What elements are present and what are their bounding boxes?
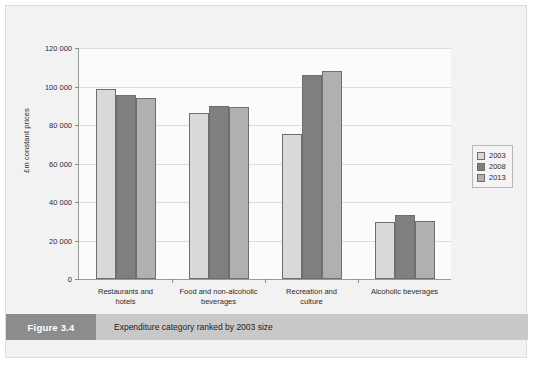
bar-2008	[395, 215, 415, 279]
bar-group-bars	[79, 48, 172, 279]
bar-2003	[96, 89, 116, 279]
bar-2008	[209, 106, 229, 279]
legend-swatch-icon	[477, 152, 485, 160]
bar-2003	[189, 113, 209, 280]
x-axis-label-line: hotels	[74, 297, 178, 307]
bar-group-bars	[172, 48, 265, 279]
x-axis-category-label: Recreation andculture	[260, 287, 364, 307]
chart-legend: 200320082013	[472, 145, 513, 188]
bar-2008	[302, 75, 322, 279]
y-axis-tick-label: 40 000	[49, 198, 72, 207]
figure-caption-bar: Figure 3.4 Expenditure category ranked b…	[6, 314, 528, 340]
bar-2013	[322, 71, 342, 279]
x-axis-label-line: Alcoholic beverages	[353, 287, 457, 297]
bar-2013	[136, 98, 156, 279]
x-axis-label-line: culture	[260, 297, 364, 307]
y-axis-tick-label: 80 000	[49, 121, 72, 130]
x-axis-label-line: Food and non-alcoholic	[167, 287, 271, 297]
legend-item-label: 2003	[489, 151, 506, 160]
legend-swatch-icon	[477, 163, 485, 171]
bar-2003	[375, 222, 395, 279]
x-axis-category-label: Food and non-alcoholicbeverages	[167, 287, 271, 307]
chart-area: £m constant prices 120 000100 00080 0006…	[6, 6, 528, 306]
y-axis-title: £m constant prices	[22, 81, 31, 201]
x-axis-label-line: Restaurants and	[74, 287, 178, 297]
bar-group: Alcoholic beverages	[358, 48, 451, 279]
x-axis-tick	[172, 279, 173, 283]
figure-frame: £m constant prices 120 000100 00080 0006…	[5, 5, 527, 358]
bar-group: Restaurants andhotels	[79, 48, 172, 279]
bar-2013	[229, 107, 249, 279]
figure-caption-text: Expenditure category ranked by 2003 size	[96, 314, 528, 340]
x-axis-category-label: Restaurants andhotels	[74, 287, 178, 307]
x-axis-label-line: Recreation and	[260, 287, 364, 297]
bar-2008	[116, 95, 136, 279]
bar-2003	[282, 134, 302, 279]
legend-item-label: 2013	[489, 173, 506, 182]
plot-area: 120 000100 00080 00060 00040 00020 0000R…	[78, 48, 451, 280]
bar-group: Recreation andculture	[265, 48, 358, 279]
x-axis-tick	[358, 279, 359, 283]
y-axis-tick-label: 0	[68, 275, 72, 284]
x-axis-label-line: beverages	[167, 297, 271, 307]
legend-item-2013: 2013	[477, 172, 506, 183]
x-axis-tick	[265, 279, 266, 283]
y-axis-tick	[75, 279, 79, 280]
bar-group: Food and non-alcoholicbeverages	[172, 48, 265, 279]
legend-item-2008: 2008	[477, 161, 506, 172]
bar-2013	[415, 221, 435, 279]
x-axis-category-label: Alcoholic beverages	[353, 287, 457, 297]
bar-group-bars	[265, 48, 358, 279]
y-axis-tick-label: 100 000	[45, 82, 72, 91]
plot-inner: 120 000100 00080 00060 00040 00020 0000R…	[79, 48, 451, 279]
y-axis-tick-label: 20 000	[49, 236, 72, 245]
figure-number-tag: Figure 3.4	[6, 314, 96, 340]
bar-group-bars	[358, 48, 451, 279]
legend-item-2003: 2003	[477, 150, 506, 161]
y-axis-tick-label: 60 000	[49, 159, 72, 168]
legend-swatch-icon	[477, 174, 485, 182]
legend-item-label: 2008	[489, 162, 506, 171]
y-axis-tick-label: 120 000	[45, 44, 72, 53]
